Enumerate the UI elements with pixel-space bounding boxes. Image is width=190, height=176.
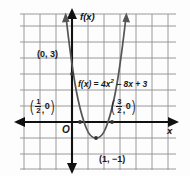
close-paren: ) bbox=[51, 98, 55, 115]
y-value: 0 bbox=[45, 102, 50, 111]
fraction-three-halves: 3 2 bbox=[116, 98, 122, 115]
point-label-y-intercept: (0, 3) bbox=[37, 50, 58, 59]
point-root-left bbox=[78, 120, 82, 124]
equation-term3: + 3 bbox=[135, 79, 147, 89]
point-label-root-left: ( 1 2 , 0 ) bbox=[29, 98, 56, 115]
open-paren: ( bbox=[111, 98, 115, 115]
origin-label: O bbox=[62, 125, 70, 135]
point-y-intercept bbox=[70, 72, 74, 76]
point-root-right bbox=[110, 120, 114, 124]
point-label-root-right: ( 3 2 , 0 ) bbox=[110, 98, 137, 115]
graph-figure: f(x) x O (0, 3) ( 1 2 , 0 ) ( 3 2 , 0 ) … bbox=[0, 0, 190, 176]
fraction-numerator: 1 bbox=[35, 98, 41, 106]
fraction-denominator: 2 bbox=[35, 107, 41, 115]
close-paren: ) bbox=[132, 98, 136, 115]
fraction-denominator: 2 bbox=[116, 107, 122, 115]
point-label-vertex: (1, −1) bbox=[99, 155, 125, 164]
point-vertex bbox=[94, 136, 98, 140]
fraction-one-half: 1 2 bbox=[35, 98, 41, 115]
y-axis-label: f(x) bbox=[80, 12, 95, 22]
function-equation-label: f(x) = 4x2 − 8x + 3 bbox=[78, 80, 147, 89]
equation-term2: − 8x bbox=[116, 79, 133, 89]
equation-lhs: f(x) bbox=[78, 79, 91, 89]
x-axis-label: x bbox=[167, 126, 172, 136]
fraction-numerator: 3 bbox=[116, 98, 122, 106]
open-paren: ( bbox=[30, 98, 34, 115]
equation-term1-exponent: 2 bbox=[110, 78, 113, 84]
equation-equals: = bbox=[94, 79, 99, 89]
y-value: 0 bbox=[126, 102, 131, 111]
